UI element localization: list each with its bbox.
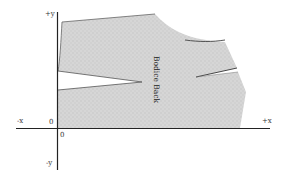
plus-x-label: +x bbox=[262, 118, 272, 125]
plus-y-label: +y bbox=[45, 11, 55, 18]
minus-x-label: -x bbox=[17, 118, 23, 125]
diagram-canvas: +y -y -x +x 0 0 Bodice Back bbox=[0, 0, 287, 177]
pattern-diagram bbox=[0, 0, 287, 177]
origin-x-label: 0 bbox=[60, 132, 64, 139]
piece-label: Bodice Back bbox=[153, 56, 161, 103]
origin-y-label: 0 bbox=[49, 119, 53, 126]
minus-y-label: -y bbox=[46, 160, 52, 167]
